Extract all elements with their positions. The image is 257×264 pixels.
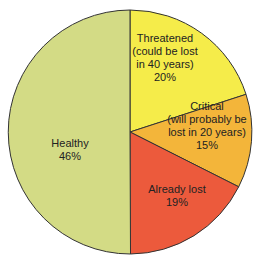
label-already-lost: Already lost 19%	[148, 183, 205, 209]
slice-healthy	[8, 10, 130, 254]
label-threatened: Threatened (could be lost in 40 years) 2…	[132, 32, 197, 84]
label-healthy: Healthy 46%	[51, 137, 88, 163]
label-critical: Critical (will probably be lost in 20 ye…	[167, 100, 246, 152]
